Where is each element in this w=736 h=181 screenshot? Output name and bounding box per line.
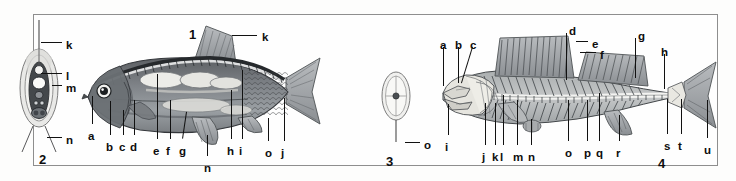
figure2-leader-m <box>52 85 62 86</box>
figure1-label-e: e <box>153 146 159 158</box>
figure4-label-t: t <box>678 141 682 153</box>
figure1-label-n: n <box>204 163 211 175</box>
figure2-leader-k <box>41 42 62 43</box>
figure2-label-l: l <box>66 71 69 83</box>
figure1-leader-n <box>207 135 208 156</box>
figure1-label-o: o <box>265 148 272 160</box>
figure4-leader-d <box>566 33 567 80</box>
figure1-leader-c <box>123 110 124 135</box>
figure4-leader-i <box>448 104 449 135</box>
figure3-label-o: o <box>424 140 431 152</box>
figure4-leader-e <box>576 41 588 42</box>
figure4-label-p: p <box>584 148 591 160</box>
figure1-leader-o <box>268 118 269 141</box>
figure1-label-k: k <box>262 32 268 44</box>
figure4-leader-f <box>580 52 596 53</box>
figure4-artwork <box>443 36 716 135</box>
figure3-artwork <box>382 72 410 142</box>
figure4-leader-q <box>599 93 600 141</box>
figure1-label-h: h <box>227 146 234 158</box>
figure4-label-o: o <box>565 148 572 160</box>
figure4-label-d: d <box>569 26 576 38</box>
figure2-label-m: m <box>66 83 76 95</box>
figure1-leader-i <box>242 70 243 139</box>
figure4-leader-n <box>531 119 532 145</box>
figure-number-4: 4 <box>658 157 665 170</box>
figure1-leader-a <box>92 96 93 124</box>
figure1-leader-f <box>170 100 171 139</box>
figure4-leader-k <box>495 103 496 145</box>
figure1-label-j: j <box>281 148 284 160</box>
figure2-leader-l <box>41 73 62 74</box>
figure4-label-j: j <box>482 152 485 164</box>
figure4-leader-u <box>707 100 708 138</box>
figure1-label-a: a <box>88 131 94 143</box>
figure1-leader-d <box>134 100 135 135</box>
figure4-leader-j <box>485 103 486 145</box>
figure4-label-h: h <box>661 47 668 59</box>
figure4-label-q: q <box>596 148 603 160</box>
figure1-label-f: f <box>166 146 170 158</box>
figure4-label-r: r <box>616 148 620 160</box>
figure4-leader-l <box>503 95 504 145</box>
figure1-leader-e <box>157 74 158 139</box>
figure4-label-u: u <box>704 145 711 157</box>
figure4-leader-m <box>517 100 518 145</box>
figure4-label-k: k <box>492 152 498 164</box>
figure2-leader-n <box>47 137 62 138</box>
figure4-leader-h <box>664 54 665 89</box>
figure-number-3: 3 <box>386 155 393 168</box>
figure1-label-g: g <box>179 146 186 158</box>
figure1-label-b: b <box>106 142 113 154</box>
figure1-leader-h <box>231 90 232 139</box>
figure1-label-c: c <box>119 142 125 154</box>
figure1-leader-j <box>284 98 285 141</box>
figure4-leader-b <box>458 47 459 83</box>
figure4-leader-a <box>443 47 444 86</box>
figure1-leader-k <box>232 35 257 36</box>
figure4-label-e: e <box>592 39 598 51</box>
figure4-label-m: m <box>513 152 523 164</box>
figure4-label-a: a <box>440 40 446 52</box>
anatomy-plate: abcdefgnhiojkklmnoabcdefghijklmnopqrstu … <box>0 0 736 181</box>
illustration-layer <box>0 0 736 181</box>
figure4-label-s: s <box>664 141 670 153</box>
figure4-leader-t <box>681 99 682 134</box>
figure4-label-g: g <box>638 31 645 43</box>
figure4-label-c: c <box>470 40 476 52</box>
figure-number-2: 2 <box>39 153 46 166</box>
figure4-label-n: n <box>528 152 535 164</box>
figure2-label-n: n <box>66 135 73 147</box>
figure4-label-i: i <box>445 142 448 154</box>
figure1-label-d: d <box>130 142 137 154</box>
figure4-leader-r <box>619 115 620 141</box>
figure-number-1: 1 <box>189 28 196 41</box>
figure1-label-i: i <box>239 146 242 158</box>
figure1-leader-b <box>110 101 111 135</box>
figure3-leader-o <box>405 142 420 143</box>
figure2-label-k: k <box>66 40 72 52</box>
figure4-label-f: f <box>600 50 604 62</box>
figure4-label-l: l <box>500 152 503 164</box>
figure4-leader-o <box>568 100 569 141</box>
figure4-leader-p <box>587 100 588 141</box>
figure4-leader-g <box>635 38 636 78</box>
figure4-label-b: b <box>455 40 462 52</box>
figure4-leader-s <box>667 99 668 134</box>
